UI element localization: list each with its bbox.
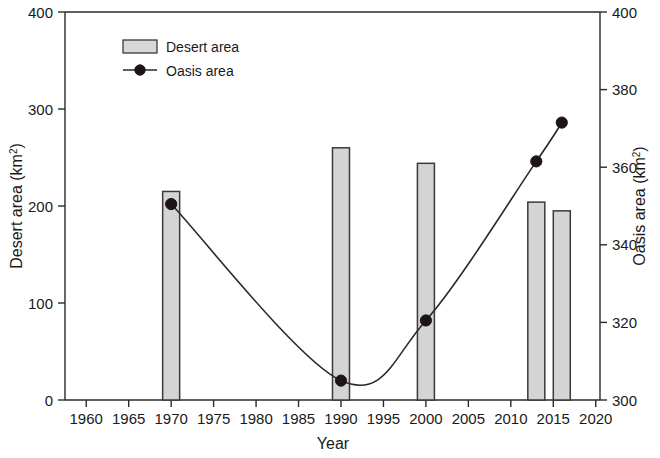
axis-titles: Desert area (km2) Oasis area (km2) Year — [8, 143, 648, 452]
legend-label-desert-area: Desert area — [166, 39, 239, 55]
x-axis-tick-label: 1975 — [197, 410, 230, 427]
desert-area-bars — [163, 148, 571, 400]
bar-swatch-icon — [123, 40, 157, 53]
y-axis-right-tick-label: 400 — [612, 4, 637, 21]
x-axis-tick-label: 1995 — [367, 410, 400, 427]
bar — [332, 148, 349, 400]
x-axis-tick-label: 1985 — [282, 410, 315, 427]
y-axis-left-ticks: 0100200300400 — [28, 4, 65, 409]
y-axis-left-title: Desert area (km2) — [8, 143, 25, 269]
y-axis-left-title-tail: ) — [8, 143, 25, 148]
y-axis-left-tick-label: 0 — [45, 392, 53, 409]
oasis-area-line-path — [171, 123, 562, 386]
data-point-marker — [556, 117, 567, 128]
legend-label-oasis-area: Oasis area — [166, 63, 234, 79]
y-axis-left-tick-label: 400 — [28, 4, 53, 21]
x-axis-title: Year — [317, 435, 350, 452]
y-axis-right-title: Oasis area (km2) — [631, 146, 648, 265]
y-axis-left-tick-label: 300 — [28, 101, 53, 118]
x-axis-tick-label: 2010 — [494, 410, 527, 427]
x-axis-tick-label: 1990 — [324, 410, 357, 427]
y-axis-left-tick-label: 100 — [28, 295, 53, 312]
data-point-marker — [335, 375, 346, 386]
bar — [417, 163, 434, 400]
data-point-marker — [166, 198, 177, 209]
y-axis-right-title-tail: ) — [631, 146, 648, 151]
bar — [163, 191, 180, 400]
data-point-marker — [531, 156, 542, 167]
y-axis-right-tick-label: 320 — [612, 314, 637, 331]
bar — [553, 211, 570, 400]
y-axis-right-title-text: Oasis area (km — [631, 157, 648, 265]
y-axis-left-tick-label: 200 — [28, 198, 53, 215]
line-marker-swatch-dot-icon — [135, 65, 145, 75]
chart-figure: 0100200300400 300320340360380400 1960196… — [0, 0, 660, 458]
x-axis-tick-label: 2020 — [579, 410, 612, 427]
x-axis-ticks: 1960196519701975198019851990199520002005… — [70, 400, 613, 427]
x-axis-tick-label: 1960 — [70, 410, 103, 427]
chart-canvas: 0100200300400 300320340360380400 1960196… — [0, 0, 660, 458]
oasis-area-markers — [166, 117, 568, 386]
x-axis-tick-label: 1965 — [112, 410, 145, 427]
y-axis-right-tick-label: 300 — [612, 392, 637, 409]
x-axis-tick-label: 2015 — [537, 410, 570, 427]
x-axis-tick-label: 1970 — [154, 410, 187, 427]
x-axis-tick-label: 2005 — [452, 410, 485, 427]
y-axis-right-tick-label: 380 — [612, 81, 637, 98]
chart-legend: Desert area Oasis area — [123, 39, 239, 79]
oasis-area-line — [171, 123, 562, 386]
y-axis-left-title-text: Desert area (km — [8, 154, 25, 269]
x-axis-tick-label: 1980 — [239, 410, 272, 427]
data-point-marker — [420, 315, 431, 326]
x-axis-tick-label: 2000 — [409, 410, 442, 427]
bar — [528, 202, 545, 400]
